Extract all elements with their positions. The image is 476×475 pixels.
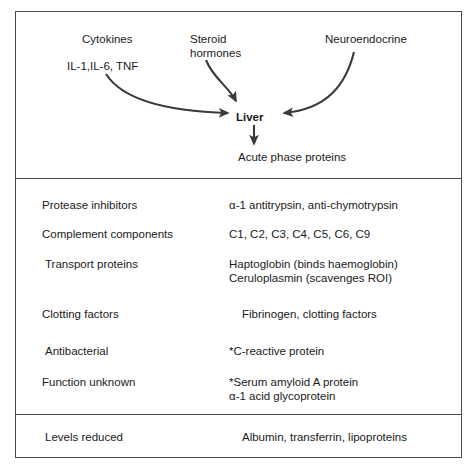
row-value: C1, C2, C3, C4, C5, C6, C9 [229,227,370,241]
arrow-steroid-to-liver [206,60,236,101]
row-value-line: *C-reactive protein [229,344,324,358]
row-value-line: Albumin, transferrin, lipoproteins [242,430,407,444]
node-label-cytokines: Cytokines [82,33,133,47]
row-value-line: C1, C2, C3, C4, C5, C6, C9 [229,227,370,241]
row-category: Antibacterial [45,344,108,358]
row-value: Albumin, transferrin, lipoproteins [242,430,407,444]
node-label-neuroendocrine: Neuroendocrine [325,33,407,47]
row-category: Clotting factors [42,307,119,321]
node-label-steroid-hormones: Steroid hormones [190,33,241,60]
row-category: Transport proteins [45,257,138,271]
row-value-line: *Serum amyloid A protein [229,375,358,389]
row-value-line: Fibrinogen, clotting factors [242,307,377,321]
row-value-line: Haptoglobin (binds haemoglobin) [229,257,398,271]
figure-frame: Cytokines IL-1,IL-6, TNF Steroid hormone… [15,11,462,458]
node-label-interleukins: IL-1,IL-6, TNF [67,60,138,74]
arrow-cytokines-to-liver [106,74,228,113]
row-category: Complement components [42,227,173,241]
node-label-liver: Liver [236,111,264,125]
row-category: Protease inhibitors [42,198,137,212]
node-label-acute-phase-proteins: Acute phase proteins [238,151,346,165]
reduced-table: Levels reduced Albumin, transferrin, lip… [16,414,461,459]
steroid-line-2: hormones [190,47,241,59]
steroid-line-1: Steroid [190,33,226,45]
arrow-neuroendocrine-to-liver [284,52,354,113]
row-value: Fibrinogen, clotting factors [242,307,377,321]
row-value-line: α-1 acid glycoprotein [229,389,358,403]
row-value: *Serum amyloid A protein α-1 acid glycop… [229,375,358,403]
row-value-line: α-1 antitrypsin, anti-chymotrypsin [229,198,398,212]
row-value: *C-reactive protein [229,344,324,358]
protein-table: Protease inhibitors α-1 antitrypsin, ant… [16,178,461,414]
schematic-panel: Cytokines IL-1,IL-6, TNF Steroid hormone… [16,12,461,178]
row-value: Haptoglobin (binds haemoglobin) Cerulopl… [229,257,398,285]
row-category: Function unknown [42,375,135,389]
row-category: Levels reduced [45,430,123,444]
row-value: α-1 antitrypsin, anti-chymotrypsin [229,198,398,212]
row-value-line: Ceruloplasmin (scavenges ROI) [229,271,398,285]
